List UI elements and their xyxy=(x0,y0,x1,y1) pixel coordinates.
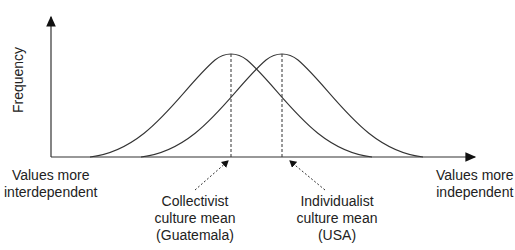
x-axis-left-label: Values more interdependent xyxy=(4,167,97,201)
y-axis-label: Frequency xyxy=(8,40,28,120)
collectivist-annotation: Collectivist culture mean (Guatemala) xyxy=(150,193,240,244)
right-label-line-2: independent xyxy=(436,184,514,201)
y-axis-label-text: Frequency xyxy=(10,47,26,113)
left-label-line-1: Values more xyxy=(4,167,97,184)
right-label-line-1: Values more xyxy=(436,167,514,184)
left-label-line-2: interdependent xyxy=(4,184,97,201)
individualist-annotation-line-2: culture mean xyxy=(292,210,382,227)
x-axis-right-label: Values more independent xyxy=(436,167,514,201)
individualist-annotation: Individualist culture mean (USA) xyxy=(292,193,382,244)
collectivist-annotation-line-3: (Guatemala) xyxy=(150,227,240,244)
individualist-pointer xyxy=(290,161,325,190)
collectivist-annotation-line-1: Collectivist xyxy=(150,193,240,210)
individualist-annotation-line-1: Individualist xyxy=(292,193,382,210)
individualist-annotation-line-3: (USA) xyxy=(292,227,382,244)
diagram-canvas xyxy=(0,0,515,250)
collectivist-annotation-line-2: culture mean xyxy=(150,210,240,227)
collectivist-pointer xyxy=(195,161,228,190)
